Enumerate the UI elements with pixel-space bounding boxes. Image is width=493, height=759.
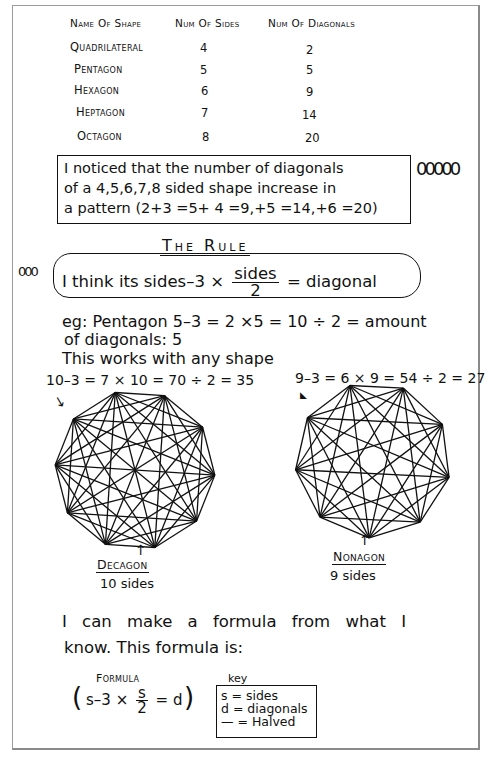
table-header-name: Name Of Shape — [70, 17, 141, 29]
conclusion-line: I can make a formula from what I — [62, 612, 406, 631]
decagon-sides: 10 sides — [100, 576, 154, 591]
decagon-diagram — [40, 380, 240, 560]
rule-fraction: sides 2 — [232, 266, 278, 299]
margin-doodle: 00000 — [416, 158, 458, 179]
pattern-note-box: I noticed that the number of diagonals o… — [57, 155, 411, 224]
decagon-label: Decagon — [96, 557, 149, 573]
nonagon-diagram — [285, 380, 465, 550]
formula-expression: s–3 × s 2 = d — [86, 686, 182, 715]
arrow-icon: ↑ — [135, 542, 147, 558]
nonagon-label: Nonagon — [332, 549, 386, 565]
margin-doodle: 000 — [18, 264, 37, 279]
example-line: eg: Pentagon 5–3 = 2 ×5 = 10 ÷ 2 = amoun… — [62, 312, 427, 331]
key-item: — = Halved — [221, 715, 295, 728]
rule-statement: I think its sides–3 × sides 2 = diagonal — [62, 266, 377, 299]
example-line: of diagonals: 5 — [64, 330, 182, 349]
example-line: This works with any shape — [62, 349, 274, 368]
table-header-sides: Num Of Sides — [175, 17, 240, 29]
conclusion-line: know. This formula is: — [64, 638, 243, 657]
pattern-line: of a 4,5,6,7,8 sided shape increase in — [64, 178, 404, 198]
pattern-line: a pattern (2+3 =5+ 4 =9,+5 =14,+6 =20) — [64, 198, 404, 218]
key-title: key — [228, 672, 247, 686]
formula-title: Formula — [96, 672, 139, 685]
formula-close-paren: ) — [184, 682, 194, 712]
arrow-icon: ↑ — [359, 532, 371, 548]
formula-open-paren: ( — [72, 682, 82, 712]
pattern-line: I noticed that the number of diagonals — [64, 158, 404, 178]
table-header-diagonals: Num Of Diagonals — [268, 17, 355, 29]
nonagon-sides: 9 sides — [330, 568, 376, 583]
